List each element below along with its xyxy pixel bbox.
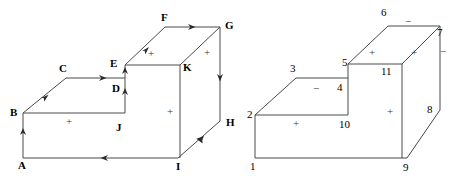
vertex-label-8: 8 xyxy=(427,104,433,115)
vertex-label-11: 11 xyxy=(381,66,392,77)
edge-B-C xyxy=(23,78,66,113)
face-sign-right-front: + xyxy=(387,106,393,117)
edge-E-F xyxy=(125,27,165,65)
vertex-label-J: J xyxy=(116,122,122,133)
vertex-label-A: A xyxy=(18,160,26,171)
face-sign-right-side: − xyxy=(440,46,446,57)
vertex-label-9: 9 xyxy=(403,162,409,173)
vertex-label-6: 6 xyxy=(381,7,387,18)
face-sign-left-upper-right: + xyxy=(204,47,210,58)
left-solid-edges xyxy=(23,27,220,158)
face-sign-left-front: + xyxy=(167,106,173,117)
face-sign-right-step-top: − xyxy=(313,83,319,94)
face-sign-right-top-right: + xyxy=(411,47,417,58)
arrow-H-to-I xyxy=(196,136,204,143)
left-arrowheads xyxy=(20,24,223,161)
vertex-label-10: 10 xyxy=(339,119,350,130)
face-sign-left-top: + xyxy=(148,48,154,59)
vertex-label-1: 1 xyxy=(250,161,256,172)
vertex-label-3: 3 xyxy=(290,63,296,74)
vertex-label-K: K xyxy=(183,62,192,73)
vertex-label-7: 7 xyxy=(437,27,443,38)
face-sign-right-top-left: + xyxy=(369,47,375,58)
edge-2-3 xyxy=(255,78,296,115)
vertex-label-4: 4 xyxy=(337,82,343,93)
face-sign-right-bottom: + xyxy=(293,118,299,129)
vertex-label-I: I xyxy=(176,161,180,172)
edge-11-7 xyxy=(402,26,440,64)
vertex-label-2: 2 xyxy=(247,109,253,120)
vertex-label-D: D xyxy=(112,83,120,94)
vertex-label-G: G xyxy=(225,20,234,31)
face-sign-left-bottom: + xyxy=(66,116,72,127)
vertex-label-B: B xyxy=(10,107,17,118)
edge-8-9 xyxy=(407,110,440,158)
vertex-label-C: C xyxy=(59,63,67,74)
figure-canvas: A B C D E F G H I J K + + + + 1 2 3 4 5 … xyxy=(0,0,461,184)
vertex-label-E: E xyxy=(110,58,117,69)
vertex-label-5: 5 xyxy=(342,57,348,68)
edge-5-6 xyxy=(348,26,388,64)
vertex-label-H: H xyxy=(226,117,235,128)
face-sign-right-rear-top: − xyxy=(405,16,411,27)
vertex-label-F: F xyxy=(161,12,168,23)
edge-K-G xyxy=(180,27,220,65)
